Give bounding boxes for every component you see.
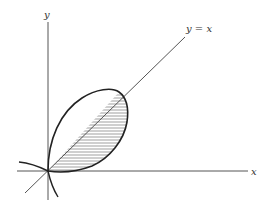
y-axis-label: y <box>43 9 50 20</box>
line-y-equals-x <box>25 37 185 193</box>
x-axis-label: x <box>251 166 257 177</box>
diagram: y y = x x <box>0 0 271 210</box>
line-label: y = x <box>185 23 212 34</box>
curve-branch-down <box>48 171 58 197</box>
curve-branch-left <box>19 162 48 171</box>
